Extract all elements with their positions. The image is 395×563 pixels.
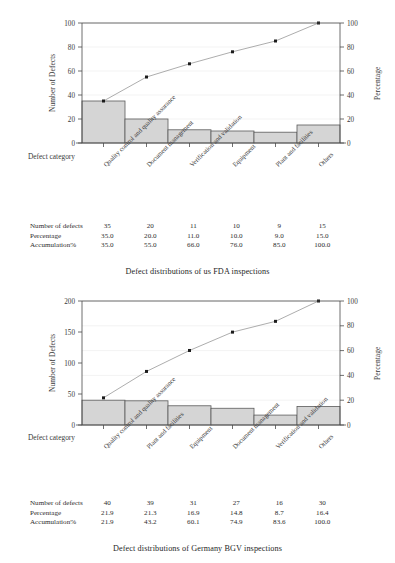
x-axis-title: Defect category bbox=[28, 152, 75, 161]
table-cell: 83.6 bbox=[258, 518, 301, 528]
table-cell: 43.2 bbox=[129, 518, 172, 528]
y2-tick-label: 0 bbox=[347, 422, 351, 430]
cumulative-line bbox=[104, 23, 319, 101]
table-cell: 40 bbox=[86, 499, 129, 509]
table-cell: 16.4 bbox=[301, 509, 344, 519]
y-tick-label: 100 bbox=[64, 360, 75, 368]
table-cell: 11 bbox=[172, 222, 215, 232]
y-tick-label: 60 bbox=[68, 68, 76, 76]
table-cell: 100.0 bbox=[301, 518, 344, 528]
line-marker bbox=[188, 62, 191, 65]
bar bbox=[254, 132, 297, 143]
line-marker bbox=[274, 40, 277, 43]
figure-fda-pareto-chart: 020406080100020406080100 Number of Defec… bbox=[0, 0, 395, 283]
y2-tick-label: 60 bbox=[347, 68, 355, 76]
y2-tick-label: 80 bbox=[347, 44, 355, 52]
bar bbox=[82, 400, 125, 425]
table-cell: 21.9 bbox=[86, 509, 129, 519]
y-axis-title-left: Number of Defects bbox=[48, 334, 57, 392]
table-row: Number of defects403931271630 bbox=[30, 499, 344, 509]
table-cell: 31 bbox=[172, 499, 215, 509]
y2-tick-label: 20 bbox=[347, 116, 355, 124]
table-cell: 74.9 bbox=[215, 518, 258, 528]
y-axis-title-right: Percentage bbox=[373, 346, 382, 379]
table-cell: 9.0 bbox=[258, 232, 301, 242]
table-row-label: Percentage bbox=[30, 509, 86, 519]
y-axis-title-right: Percentage bbox=[373, 66, 382, 99]
data-table-bgv: Number of defects403931271630Percentage2… bbox=[30, 499, 344, 528]
cumulative-line bbox=[104, 301, 319, 398]
line-marker bbox=[145, 76, 148, 79]
y-tick-label: 200 bbox=[64, 298, 75, 306]
table-cell: 100.0 bbox=[301, 241, 344, 251]
line-marker bbox=[231, 50, 234, 53]
table-cell: 8.7 bbox=[258, 509, 301, 519]
line-marker bbox=[145, 370, 148, 373]
table-cell: 15 bbox=[301, 222, 344, 232]
y2-tick-label: 40 bbox=[347, 92, 355, 100]
line-marker bbox=[274, 320, 277, 323]
y-tick-label: 80 bbox=[68, 44, 76, 52]
y2-tick-label: 40 bbox=[347, 372, 355, 380]
table-cell: 66.0 bbox=[172, 241, 215, 251]
y2-tick-label: 100 bbox=[347, 298, 358, 306]
y-tick-label: 40 bbox=[68, 92, 76, 100]
y2-tick-label: 20 bbox=[347, 397, 355, 405]
line-marker bbox=[102, 396, 105, 399]
table-row-label: Accumulation% bbox=[30, 518, 86, 528]
y-tick-label: 50 bbox=[68, 391, 76, 399]
y-tick-label: 0 bbox=[71, 422, 75, 430]
table-cell: 76.0 bbox=[215, 241, 258, 251]
table-row: Accumulation%21.943.260.174.983.6100.0 bbox=[30, 518, 344, 528]
table-cell: 9 bbox=[258, 222, 301, 232]
table-cell: 27 bbox=[215, 499, 258, 509]
line-marker bbox=[188, 349, 191, 352]
line-marker bbox=[102, 100, 105, 103]
table-cell: 16 bbox=[258, 499, 301, 509]
figure-caption: Defect distributions of us FDA inspectio… bbox=[0, 267, 395, 276]
table-cell: 20.0 bbox=[129, 232, 172, 242]
figure-bgv-pareto-chart: 050100150200020406080100 Number of Defec… bbox=[0, 281, 395, 563]
table-cell: 35.0 bbox=[86, 232, 129, 242]
table-row: Accumulation%35.055.066.076.085.0100.0 bbox=[30, 241, 344, 251]
table-cell: 35.0 bbox=[86, 241, 129, 251]
y-tick-label: 100 bbox=[64, 20, 75, 28]
table-cell: 55.0 bbox=[129, 241, 172, 251]
y-tick-label: 150 bbox=[64, 329, 75, 337]
table-cell: 14.8 bbox=[215, 509, 258, 519]
table-cell: 20 bbox=[129, 222, 172, 232]
table-cell: 15.0 bbox=[301, 232, 344, 242]
data-table-fda: Number of defects35201110915Percentage35… bbox=[30, 222, 344, 251]
table-cell: 21.9 bbox=[86, 518, 129, 528]
table-cell: 35 bbox=[86, 222, 129, 232]
table-row-label: Accumulation% bbox=[30, 241, 86, 251]
table-cell: 60.1 bbox=[172, 518, 215, 528]
y2-tick-label: 0 bbox=[347, 140, 351, 148]
table-cell: 30 bbox=[301, 499, 344, 509]
table-cell: 85.0 bbox=[258, 241, 301, 251]
x-axis-title: Defect category bbox=[28, 433, 75, 442]
table-cell: 21.3 bbox=[129, 509, 172, 519]
bar bbox=[82, 101, 125, 143]
table-cell: 10.0 bbox=[215, 232, 258, 242]
bar bbox=[211, 408, 254, 425]
table-row-label: Number of defects bbox=[30, 499, 86, 509]
table-row: Number of defects35201110915 bbox=[30, 222, 344, 232]
y-axis-title-left: Number of Defects bbox=[48, 54, 57, 112]
table-row: Percentage21.921.316.914.88.716.4 bbox=[30, 509, 344, 519]
table-cell: 10 bbox=[215, 222, 258, 232]
table-cell: 11.0 bbox=[172, 232, 215, 242]
table-cell: 39 bbox=[129, 499, 172, 509]
line-marker bbox=[231, 331, 234, 334]
table-row: Percentage35.020.011.010.09.015.0 bbox=[30, 232, 344, 242]
table-row-label: Percentage bbox=[30, 232, 86, 242]
y2-tick-label: 100 bbox=[347, 20, 358, 28]
y-tick-label: 20 bbox=[68, 116, 76, 124]
y2-tick-label: 60 bbox=[347, 347, 355, 355]
table-row-label: Number of defects bbox=[30, 222, 86, 232]
table-cell: 16.9 bbox=[172, 509, 215, 519]
y-tick-label: 0 bbox=[71, 140, 75, 148]
figure-caption: Defect distributions of Germany BGV insp… bbox=[0, 544, 395, 553]
y2-tick-label: 80 bbox=[347, 322, 355, 330]
